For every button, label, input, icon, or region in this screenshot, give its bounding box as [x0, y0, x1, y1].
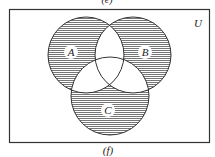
figure-caption: (f): [103, 144, 114, 157]
set-a-label: A: [67, 46, 75, 58]
universe-label: U: [194, 17, 203, 29]
venn-diagram: (e) A B C U (f): [0, 0, 215, 157]
top-label-partial: (e): [101, 0, 113, 6]
set-c-label: C: [104, 104, 112, 116]
set-b-label: B: [142, 46, 149, 58]
